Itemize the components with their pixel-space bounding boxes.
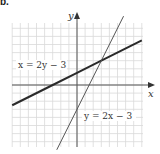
equation-label-x-eq-2y-minus-3: x = 2y − 3 [18,60,66,70]
y-axis-arrow-icon [74,12,80,19]
equation-label-y-eq-2x-minus-3: y = 2x − 3 [83,111,132,121]
y-axis-label: y [67,10,74,21]
x-axis-label: x [148,88,154,99]
coordinate-plot: x y x = 2y − 3 y = 2x − 3 [0,0,160,154]
